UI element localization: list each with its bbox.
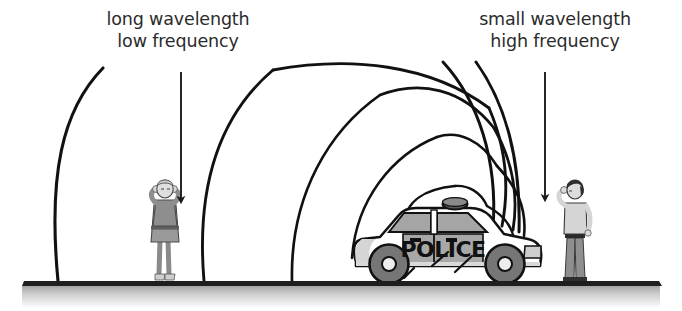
ground bbox=[22, 281, 662, 308]
left-label-line-2: low frequency bbox=[78, 30, 278, 52]
wavefront-crown-2 bbox=[273, 64, 489, 108]
wavefront-rear-1 bbox=[55, 68, 103, 281]
car-police-text: POLICE bbox=[400, 237, 485, 262]
ground-line bbox=[22, 281, 662, 286]
doppler-effect-figure: POLICE bbox=[0, 0, 682, 311]
right-label-line-1: small wavelength bbox=[460, 8, 650, 30]
right-label-line-2: high frequency bbox=[460, 30, 650, 52]
ground-shadow bbox=[22, 286, 660, 308]
wavefront-rear-2 bbox=[202, 70, 273, 281]
car-window-rear bbox=[389, 213, 431, 232]
police-car: POLICE bbox=[354, 198, 541, 284]
left-annotation-label: long wavelength low frequency bbox=[78, 8, 278, 53]
right-annotation-label: small wavelength high frequency bbox=[460, 8, 650, 53]
right-observer-figure bbox=[559, 180, 591, 281]
left-label-line-1: long wavelength bbox=[78, 8, 278, 30]
left-observer-figure bbox=[151, 180, 179, 280]
annotation-arrows bbox=[181, 72, 545, 200]
siren-light-icon bbox=[443, 198, 468, 210]
wavefront-crown-3 bbox=[380, 88, 494, 128]
car-front-wheel bbox=[486, 245, 525, 284]
